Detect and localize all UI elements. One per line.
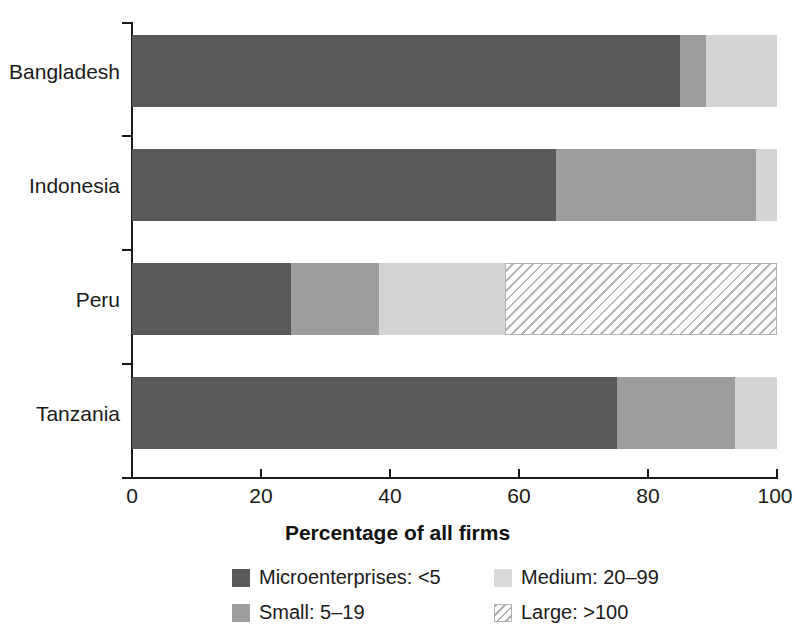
- y-axis-label-bangladesh: Bangladesh: [8, 60, 120, 84]
- legend-swatch-small-icon: [232, 604, 250, 622]
- legend-swatch-large-icon: [494, 604, 512, 622]
- legend-item-small: Small: 5–19: [232, 601, 494, 624]
- x-axis-tick: [647, 469, 649, 478]
- y-axis-label-tanzania: Tanzania: [8, 402, 120, 426]
- x-axis-title: Percentage of all firms: [0, 521, 795, 545]
- bar-segment-medium: [756, 149, 777, 221]
- legend-label: Medium: 20–99: [521, 566, 659, 589]
- bar-segment-small: [291, 263, 379, 335]
- y-axis-label-indonesia: Indonesia: [8, 174, 120, 198]
- y-axis-tick: [122, 135, 132, 137]
- stacked-bar-chart: Bangladesh Indonesia Peru Tanzania 0 20 …: [0, 0, 795, 630]
- legend-swatch-micro-icon: [232, 569, 250, 587]
- legend-item-medium: Medium: 20–99: [494, 566, 756, 589]
- x-axis-tick-label: 40: [378, 484, 401, 508]
- x-axis-line: [131, 477, 778, 479]
- x-axis-tick: [518, 469, 520, 478]
- y-axis-tick: [122, 22, 132, 24]
- legend-item-large: Large: >100: [494, 601, 756, 624]
- bar-segment-medium: [379, 263, 505, 335]
- bar-segment-micro: [132, 377, 617, 449]
- x-axis-tick-label: 0: [126, 484, 138, 508]
- bar-segment-small: [680, 35, 706, 107]
- bar-segment-medium: [735, 377, 777, 449]
- x-axis-tick-label: 20: [249, 484, 272, 508]
- legend-label: Large: >100: [521, 601, 628, 624]
- legend-swatch-medium-icon: [494, 569, 512, 587]
- chart-legend: Microenterprises: <5 Medium: 20–99 Small…: [232, 560, 772, 630]
- bar-segment-medium: [706, 35, 777, 107]
- bar-segment-micro: [132, 263, 291, 335]
- x-axis-tick: [389, 469, 391, 478]
- legend-label: Microenterprises: <5: [259, 566, 441, 589]
- x-axis-tick-label: 60: [507, 484, 530, 508]
- y-axis-label-peru: Peru: [8, 288, 120, 312]
- y-axis-tick: [122, 363, 132, 365]
- x-axis-tick: [260, 469, 262, 478]
- bar-segment-small: [617, 377, 735, 449]
- legend-item-microenterprises: Microenterprises: <5: [232, 566, 494, 589]
- x-axis-tick: [776, 469, 778, 478]
- x-axis-tick-label: 100: [757, 484, 792, 508]
- bar-segment-large: [505, 263, 777, 335]
- bar-segment-small: [556, 149, 756, 221]
- bar-segment-micro: [132, 35, 680, 107]
- y-axis-tick: [122, 249, 132, 251]
- bar-segment-micro: [132, 149, 556, 221]
- x-axis-tick: [131, 469, 133, 478]
- legend-label: Small: 5–19: [259, 601, 365, 624]
- x-axis-tick-label: 80: [636, 484, 659, 508]
